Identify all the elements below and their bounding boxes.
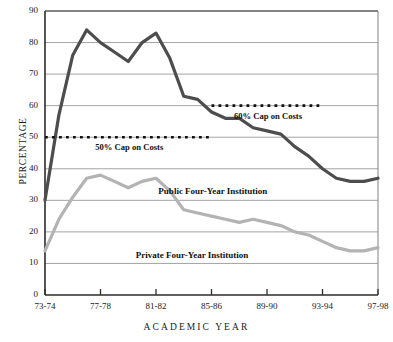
x-tick-label: 73-74 [20, 301, 70, 311]
cap-label-50: 50% Cap on Costs [95, 142, 163, 152]
series-label-private: Private Four-Year Institution [136, 250, 249, 260]
x-tick-label: 85-86 [187, 301, 237, 311]
y-tick-label: 90 [6, 5, 38, 15]
y-tick-label: 80 [6, 37, 38, 47]
data-series-group [45, 30, 378, 251]
y-tick-label: 40 [6, 163, 38, 173]
x-tick-label: 81-82 [131, 301, 181, 311]
x-axis-ticks [45, 289, 378, 295]
y-tick-label: 30 [6, 194, 38, 204]
x-tick-label: 93-94 [298, 301, 348, 311]
y-tick-label: 20 [6, 226, 38, 236]
y-tick-label: 50 [6, 131, 38, 141]
x-tick-label: 77-78 [76, 301, 126, 311]
y-tick-label: 10 [6, 257, 38, 267]
line-chart-plot [0, 0, 393, 342]
y-tick-label: 0 [6, 289, 38, 299]
series-label-public: Public Four-Year Institution [158, 186, 267, 196]
x-tick-label: 89-90 [242, 301, 292, 311]
gridlines-group [45, 43, 378, 264]
y-tick-label: 70 [6, 68, 38, 78]
chart-container: PERCENTAGE ACADEMIC YEAR 010203040506070… [0, 0, 393, 342]
y-tick-label: 60 [6, 100, 38, 110]
x-axis-title: ACADEMIC YEAR [0, 322, 393, 332]
cap-label-60: 60% Cap on Costs [234, 111, 302, 121]
x-tick-label: 97-98 [353, 301, 393, 311]
